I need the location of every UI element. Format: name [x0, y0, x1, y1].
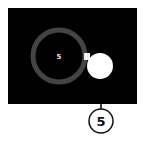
callout-number: 5 — [96, 114, 105, 129]
ring-value-label: 5 — [57, 53, 62, 61]
diagram-canvas: 5 5 — [0, 0, 148, 146]
slider-knob[interactable] — [87, 53, 113, 79]
